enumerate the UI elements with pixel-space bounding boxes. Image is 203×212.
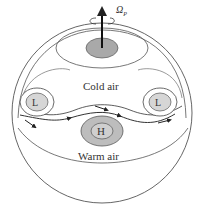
omega-subscript: P: [123, 11, 127, 17]
warm-air-label: Warm air: [78, 150, 119, 162]
low-pressure-label-right: L: [155, 97, 161, 108]
high-pressure-label: H: [97, 125, 105, 137]
low-pressure-label-left: L: [32, 97, 38, 108]
planet-circulation-diagram: [0, 0, 203, 212]
cold-air-label: Cold air: [83, 80, 119, 92]
rotation-rate-label: ΩP: [116, 4, 127, 17]
